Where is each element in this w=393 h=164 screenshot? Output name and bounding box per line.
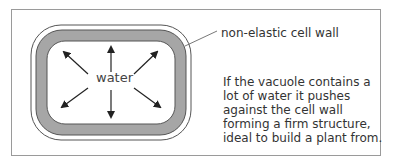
- cell-wall-label: non-elastic cell wall: [221, 26, 339, 40]
- water-label: water: [96, 70, 133, 85]
- wall-leader-line: [185, 31, 217, 46]
- caption-text: If the vacuole contains a lot of water i…: [223, 75, 383, 145]
